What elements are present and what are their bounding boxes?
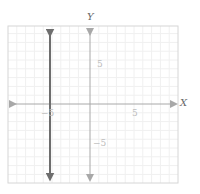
x-tick-label-pos5: 5: [132, 109, 138, 118]
y-tick-label-pos5: 5: [97, 60, 103, 69]
x-tick-label-neg5: −5: [41, 109, 54, 118]
coordinate-plane: [0, 0, 200, 194]
x-axis-label: X: [180, 98, 187, 108]
y-axis-label: Y: [87, 12, 94, 22]
y-tick-label-neg5: −5: [93, 139, 106, 148]
